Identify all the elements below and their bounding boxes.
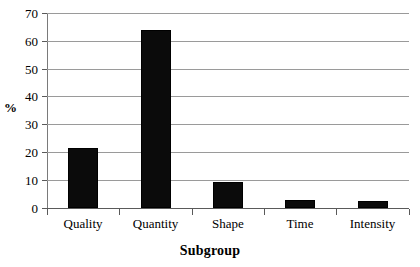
x-tick-label-shape: Shape [192,216,264,231]
x-tick-label-time: Time [264,216,336,231]
x-axis-title: Subgroup [0,243,420,259]
x-tick-mark-5 [409,209,410,215]
x-tick-mark-2 [192,209,193,215]
x-tick-mark-1 [119,209,120,215]
bar-intensity[interactable] [358,201,388,208]
y-tick-label-10: 10 [0,174,38,187]
x-axis-line [47,208,409,209]
y-tick-label-70: 70 [0,7,38,20]
y-tick-label-50: 50 [0,63,38,76]
bars-layer [47,13,409,208]
x-tick-mark-0 [47,209,48,215]
y-tick-label-20: 20 [0,146,38,159]
x-tick-label-intensity: Intensity [336,216,409,231]
bar-quality[interactable] [68,148,98,208]
bar-chart: % 70 60 50 40 30 20 10 0 Quali [0,0,420,267]
x-tick-label-quantity: Quantity [119,216,192,231]
x-tick-label-quality: Quality [47,216,119,231]
x-tick-mark-4 [336,209,337,215]
y-tick-label-0: 0 [0,202,38,215]
bar-quantity[interactable] [141,30,171,208]
bar-shape[interactable] [213,182,243,208]
x-tick-mark-3 [264,209,265,215]
y-tick-label-30: 30 [0,118,38,131]
y-tick-label-60: 60 [0,35,38,48]
y-axis-title: % [4,101,17,115]
y-tick-label-40: 40 [0,90,38,103]
